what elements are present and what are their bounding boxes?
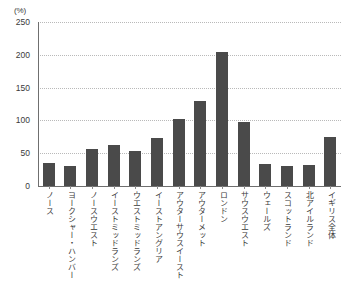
- y-axis-tick-label: 100: [16, 115, 30, 125]
- x-axis-tick-label: ノース: [45, 191, 53, 215]
- bar: [108, 145, 120, 186]
- bar: [194, 101, 206, 186]
- y-axis-tick-label: 50: [21, 148, 30, 158]
- bar-slot: [146, 22, 168, 186]
- bar-slot: [125, 22, 147, 186]
- y-axis-tick-label: 0: [25, 181, 30, 191]
- bar-slot: [233, 22, 255, 186]
- x-axis-tick-label: ノースウエスト: [88, 191, 96, 247]
- bar: [216, 52, 228, 186]
- bar-slot: [276, 22, 298, 186]
- bar-slot: [38, 22, 60, 186]
- bar-slot: [298, 22, 320, 186]
- x-axis-tick-label: イギリス全体: [326, 191, 334, 239]
- x-axis-tick: [114, 186, 115, 189]
- bars-layer: [38, 22, 341, 186]
- x-axis-tick-label: ヨークシャー・ハンバー: [66, 191, 74, 279]
- x-axis-tick: [92, 186, 93, 189]
- x-axis-tick: [222, 186, 223, 189]
- x-axis-tick-label: イーストアングリア: [153, 191, 161, 263]
- x-axis-tick: [287, 186, 288, 189]
- bar-slot: [60, 22, 82, 186]
- y-axis-tick-label: 150: [16, 83, 30, 93]
- x-axis-tick-label: 北アイルランド: [304, 191, 312, 247]
- x-axis-tick: [70, 186, 71, 189]
- bar: [173, 119, 185, 186]
- bar: [324, 137, 336, 186]
- bar: [303, 165, 315, 186]
- x-axis-tick: [135, 186, 136, 189]
- x-axis-tick-label: ウエストミッドランズ: [131, 191, 139, 271]
- x-axis-tick: [330, 186, 331, 189]
- x-axis-tick-label: イーストミッドランズ: [110, 191, 118, 271]
- y-axis-tick-labels: 050100150200250: [0, 22, 34, 186]
- x-axis-tick: [49, 186, 50, 189]
- x-axis-tick-label: サウスウエスト: [240, 191, 248, 247]
- bar: [86, 149, 98, 186]
- bar: [151, 138, 163, 186]
- x-axis-tick-label: スコットランド: [283, 191, 291, 247]
- x-axis-tick-labels: ノースヨークシャー・ハンバーノースウエストイーストミッドランズウエストミッドラン…: [38, 191, 341, 294]
- x-axis-tick: [200, 186, 201, 189]
- bar-slot: [254, 22, 276, 186]
- bar-slot: [319, 22, 341, 186]
- bar-slot: [81, 22, 103, 186]
- bar-chart: (%) 050100150200250 ノースヨークシャー・ハンバーノースウエス…: [0, 0, 350, 296]
- y-axis-tick-label: 200: [16, 50, 30, 60]
- x-axis-tick: [244, 186, 245, 189]
- x-axis-tick-label: ロンドン: [218, 191, 226, 223]
- bar: [281, 166, 293, 186]
- bar: [129, 151, 141, 186]
- x-axis-tick-label: ウェールズ: [261, 191, 269, 231]
- x-axis-tick: [265, 186, 266, 189]
- y-axis-tick-label: 250: [16, 17, 30, 27]
- bar-slot: [168, 22, 190, 186]
- x-axis-tick: [309, 186, 310, 189]
- bar-slot: [103, 22, 125, 186]
- x-axis-tick-label: アウターサウスイースト: [175, 191, 183, 279]
- y-axis-unit-label: (%): [14, 6, 26, 15]
- bar: [43, 163, 55, 186]
- bar-slot: [190, 22, 212, 186]
- x-axis-tick-label: アウターメット: [196, 191, 204, 247]
- bar: [238, 122, 250, 186]
- bar-slot: [211, 22, 233, 186]
- x-axis-tick: [157, 186, 158, 189]
- bar: [64, 166, 76, 186]
- plot-area: [38, 22, 341, 186]
- bar: [259, 164, 271, 186]
- x-axis-ticks: [38, 186, 341, 190]
- y-axis-line: [38, 22, 39, 186]
- x-axis-tick: [179, 186, 180, 189]
